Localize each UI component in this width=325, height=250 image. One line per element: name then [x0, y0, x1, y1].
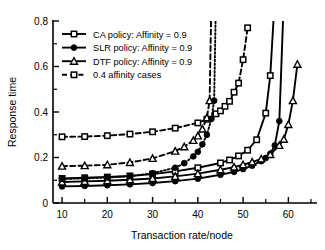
x-axis-title: Transaction rate/node — [131, 229, 233, 241]
data-point-marker — [268, 73, 273, 78]
data-point-marker — [59, 163, 66, 169]
x-tick-label: 10 — [56, 209, 68, 220]
series-line — [62, 0, 275, 178]
data-point-marker — [172, 165, 178, 171]
data-point-marker — [82, 134, 87, 139]
x-axis-ticks: 102030405060 — [56, 197, 311, 220]
data-point-marker — [71, 31, 76, 36]
data-point-marker — [289, 97, 296, 103]
data-point-marker — [199, 126, 206, 132]
data-point-marker — [194, 132, 201, 138]
data-point-marker — [149, 155, 156, 161]
data-point-marker — [82, 176, 88, 182]
legend-item-1: SLR policy: Affinity = 0.9 — [62, 43, 192, 53]
legend-item-0: CA policy: Affinity = 0.9 — [62, 30, 187, 40]
y-tick-label: 0.8 — [34, 16, 48, 27]
data-point-marker — [181, 160, 187, 166]
data-point-marker — [59, 176, 65, 182]
data-point-marker — [59, 134, 64, 139]
legend-item-3: 0.4 affinity cases — [62, 70, 162, 80]
data-point-marker — [240, 57, 245, 62]
data-point-marker — [263, 110, 268, 115]
data-point-marker — [231, 164, 238, 170]
data-point-marker — [249, 159, 256, 165]
series-4 — [59, 0, 214, 169]
data-point-marker — [104, 161, 111, 167]
data-point-marker — [285, 121, 292, 127]
chart-figure: 00.20.40.60.8102030405060Transaction rat… — [0, 0, 325, 250]
x-tick-label: 60 — [283, 209, 295, 220]
series-layer — [59, 0, 301, 189]
data-point-marker — [195, 120, 200, 125]
y-tick-label: 0.2 — [34, 152, 48, 163]
data-point-marker — [195, 149, 201, 155]
data-point-marker — [71, 58, 78, 64]
legend-item-label: CA policy: Affinity = 0.9 — [93, 30, 187, 40]
data-point-marker — [236, 153, 241, 158]
data-point-marker — [150, 170, 156, 176]
y-axis-ticks: 00.20.40.60.8 — [34, 16, 59, 209]
legend-item-label: DTF policy: Affinity = 0.9 — [93, 57, 192, 67]
data-point-marker — [294, 61, 301, 67]
legend-item-2: DTF policy: Affinity = 0.9 — [62, 57, 192, 67]
data-point-marker — [227, 99, 232, 104]
x-tick-label: 50 — [238, 209, 250, 220]
data-point-marker — [199, 141, 205, 147]
data-point-marker — [245, 148, 250, 153]
data-point-marker — [231, 90, 236, 95]
y-tick-label: 0.6 — [34, 61, 48, 72]
data-point-marker — [204, 132, 210, 138]
x-tick-label: 20 — [102, 209, 114, 220]
series-5 — [59, 0, 217, 182]
data-point-marker — [190, 153, 196, 159]
data-point-marker — [227, 157, 232, 162]
data-point-marker — [209, 116, 215, 122]
data-point-marker — [217, 166, 224, 172]
data-point-marker — [71, 45, 77, 51]
chart-legend: CA policy: Affinity = 0.9SLR policy: Aff… — [62, 30, 192, 81]
data-point-marker — [81, 162, 88, 168]
y-tick-label: 0 — [42, 198, 48, 209]
series-line — [62, 0, 211, 166]
x-tick-label: 40 — [192, 209, 204, 220]
data-point-marker — [280, 136, 287, 142]
data-point-marker — [211, 98, 217, 104]
data-point-marker — [245, 25, 250, 30]
y-axis-title: Response time — [6, 77, 18, 147]
data-point-marker — [127, 131, 132, 136]
data-point-marker — [240, 161, 247, 167]
data-point-marker — [276, 118, 282, 124]
data-point-marker — [104, 175, 110, 181]
response-time-line-chart: 00.20.40.60.8102030405060Transaction rat… — [0, 0, 325, 250]
data-point-marker — [236, 80, 241, 85]
x-tick-label: 30 — [147, 209, 159, 220]
data-point-marker — [254, 137, 259, 142]
data-point-marker — [127, 173, 133, 179]
data-point-marker — [173, 125, 178, 130]
data-point-marker — [172, 148, 179, 154]
data-point-marker — [150, 129, 155, 134]
y-tick-label: 0.4 — [34, 107, 48, 118]
legend-item-label: 0.4 affinity cases — [93, 70, 162, 80]
data-point-marker — [126, 159, 133, 165]
series-line — [62, 0, 216, 179]
data-point-marker — [71, 72, 76, 77]
data-point-marker — [105, 133, 110, 138]
legend-item-label: SLR policy: Affinity = 0.9 — [93, 43, 192, 53]
